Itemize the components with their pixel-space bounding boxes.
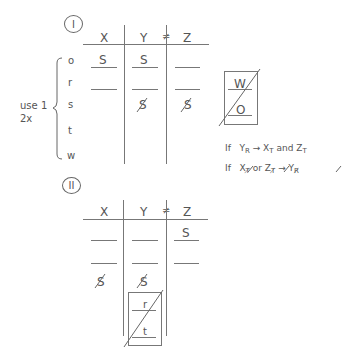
strike-s2-y [137,274,147,288]
wo-box-cross [219,69,260,126]
rt-box-cross [124,290,163,347]
strike-s2-x [95,274,105,288]
strike-s1-y [137,98,147,112]
pen-strokes [0,0,353,363]
strike-s1-z [181,98,191,112]
brace-icon [53,58,62,159]
